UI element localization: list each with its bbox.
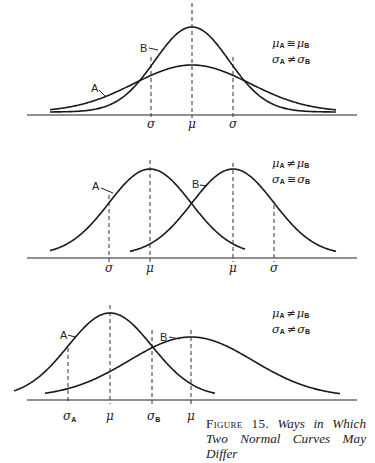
panel-3-tick-sigma-a: σA — [63, 409, 76, 423]
panel-3-label-b: B — [160, 331, 167, 343]
panel-1-legend-line-2: σA≠σB — [272, 52, 310, 66]
panel-2-tick-mu-b: μ — [229, 261, 237, 275]
panel-1-arrow-b-icon — [149, 48, 158, 50]
panel-2-arrow-a-icon — [101, 188, 113, 193]
normal-curves-figure: A B σ μ σ μA≅μB σA≠σB A B σ μ μ σ μA≠μB … — [0, 0, 375, 463]
panel-3: A B σA μ σB μ μA≠μB σA≠σB — [14, 305, 357, 423]
panel-3-curve-a — [14, 313, 215, 393]
panel-2-tick-sigma-left: σ — [105, 261, 114, 275]
panel-3-arrow-a-icon — [68, 335, 75, 337]
panel-2: A B σ μ μ σ μA≠μB σA≅σB — [27, 156, 357, 275]
figure-caption: Figure 15. Ways in Which Two Normal Curv… — [206, 416, 366, 461]
panel-1-label-b: B — [140, 42, 147, 54]
panel-2-legend: μA≠μB σA≅σB — [272, 156, 310, 186]
figure-number: Figure 15. — [206, 416, 269, 431]
panel-3-legend-line-1: μA≠μB — [272, 306, 309, 320]
panel-1-arrow-a-icon — [99, 90, 106, 97]
panel-3-legend-line-2: σA≠σB — [272, 322, 310, 336]
panel-1-tick-sigma-left: σ — [147, 117, 156, 131]
panel-3-tick-mu-b: μ — [187, 409, 195, 423]
panel-3-label-a: A — [60, 329, 68, 341]
panel-1-label-a: A — [91, 82, 99, 94]
panel-2-label-a: A — [92, 180, 100, 192]
panel-1-tick-sigma-right: σ — [229, 117, 238, 131]
panel-2-tick-sigma-right: σ — [270, 261, 279, 275]
panel-3-legend: μA≠μB σA≠σB — [272, 306, 310, 336]
panel-2-label-b: B — [192, 178, 199, 190]
panel-2-tick-mu-a: μ — [146, 261, 154, 275]
panel-1-legend: μA≅μB σA≠σB — [272, 36, 310, 66]
panel-1-tick-mu: μ — [188, 117, 196, 131]
panel-3-tick-mu-a: μ — [106, 409, 114, 423]
panel-1-legend-line-1: μA≅μB — [272, 36, 309, 50]
panel-1: A B σ μ σ μA≅μB σA≠σB — [27, 3, 357, 131]
panel-2-curve-a — [50, 169, 245, 251]
panel-2-legend-line-1: μA≠μB — [272, 156, 309, 170]
panel-3-tick-sigma-b: σB — [147, 409, 160, 423]
panel-2-legend-line-2: σA≅σB — [272, 172, 310, 186]
